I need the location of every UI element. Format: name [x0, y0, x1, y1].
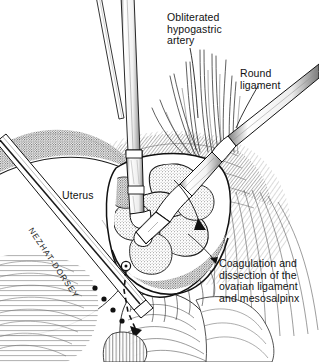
- label-round-ligament: Round ligament: [240, 68, 281, 91]
- illustration-figure: Obliterated hypogastric artery Round lig…: [0, 0, 319, 362]
- bowel-tissue: [0, 253, 98, 362]
- label-coagulation-caption: Coagulation and dissection of the ovaria…: [219, 258, 299, 304]
- label-uterus: Uterus: [62, 190, 94, 202]
- instrument-pivot: [121, 261, 130, 270]
- label-obliterated-hypogastric-artery: Obliterated hypogastric artery: [167, 12, 222, 47]
- illustration-canvas: [0, 0, 319, 362]
